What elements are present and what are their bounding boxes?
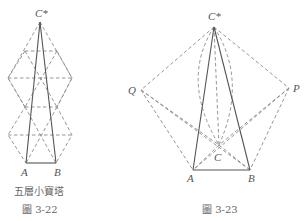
figure-3-23: C* Q P C A B 圖 3-23 [128,10,300,215]
label-a: A [20,166,28,178]
figure-caption: 圖 3-23 [202,204,238,215]
figure-subtitle: 五層小寶塔 [14,185,64,197]
diagram-canvas: C* A B 五層小寶塔 圖 3-22 [0,0,306,221]
label-q: Q [128,84,136,96]
label-a: A [186,172,194,184]
label-c: C [214,151,222,163]
pagoda-solid-triangle [26,22,56,163]
construction-dashed-lines [141,27,289,170]
pagoda-dashed-lattice [8,22,72,163]
label-b: B [54,166,61,178]
figure-3-22: C* A B 五層小寶塔 圖 3-22 [8,7,72,215]
label-p: P [292,82,300,94]
label-c-star: C* [208,10,221,22]
figure-caption: 圖 3-22 [22,204,58,215]
label-b: B [248,172,255,184]
label-c-star: C* [35,7,48,19]
solid-triangle [193,27,250,170]
